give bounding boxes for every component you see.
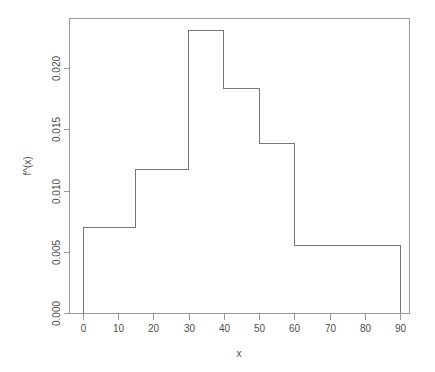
x-tick-label: 60 — [289, 323, 301, 334]
y-axis-label: f^(x) — [22, 156, 33, 175]
y-tick-label: 0.015 — [51, 117, 62, 142]
x-tick-label: 0 — [81, 323, 87, 334]
y-tick-label: 0.020 — [51, 56, 62, 81]
chart-background — [0, 0, 435, 372]
x-tick-label: 20 — [148, 323, 160, 334]
y-tick-label: 0.010 — [51, 179, 62, 204]
y-tick-label: 0.005 — [51, 240, 62, 265]
chart-canvas: 0102030405060708090 0.0000.0050.0100.015… — [0, 0, 435, 372]
x-tick-label: 30 — [184, 323, 196, 334]
histogram-plot: 0102030405060708090 0.0000.0050.0100.015… — [0, 0, 435, 372]
x-axis-label: x — [237, 348, 242, 359]
x-tick-label: 70 — [325, 323, 337, 334]
x-tick-label: 90 — [395, 323, 407, 334]
x-tick-label: 80 — [360, 323, 372, 334]
x-tick-label: 50 — [254, 323, 266, 334]
y-tick-label: 0.000 — [51, 301, 62, 326]
x-tick-label: 10 — [113, 323, 125, 334]
x-tick-label: 40 — [219, 323, 231, 334]
